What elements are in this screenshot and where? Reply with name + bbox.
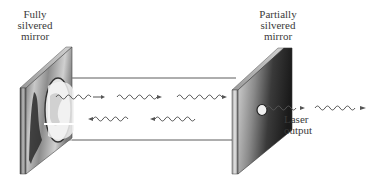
fully-silvered-mirror	[20, 47, 74, 174]
label-partially-silvered-mirror: Partially silvered mirror	[250, 9, 306, 42]
label-laser-output: Laser output	[284, 114, 320, 136]
forward-waves	[56, 95, 227, 99]
laser-tube	[60, 78, 236, 140]
partially-silvered-mirror	[232, 48, 292, 174]
label-fully-silvered-mirror: Fully silvered mirror	[10, 9, 60, 42]
backward-waves	[88, 117, 195, 121]
label-line: mirror	[10, 31, 60, 42]
label-line: mirror	[250, 31, 306, 42]
label-line: output	[284, 125, 320, 136]
aperture-hole	[257, 105, 267, 116]
